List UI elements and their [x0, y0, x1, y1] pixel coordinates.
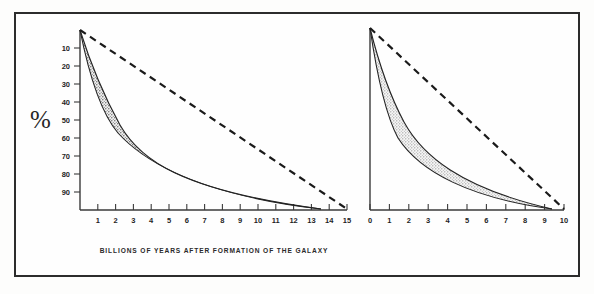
right-x-tick-label: 3 [426, 216, 430, 225]
left-y-tick-label: 70 [62, 152, 70, 161]
left-x-tick-label: 11 [272, 216, 280, 225]
left-y-tick-label: 20 [62, 62, 70, 71]
right-panel: 0 1 2 3 4 5 6 7 8 9 10 [368, 28, 568, 225]
right-x-tick-labels: 0 1 2 3 4 5 6 7 8 9 10 [368, 216, 568, 225]
left-x-tick-labels: 1 2 3 4 5 6 7 8 9 10 11 12 13 14 15 [96, 216, 351, 225]
left-x-tick-label: 3 [131, 216, 135, 225]
left-y-tick-label: 40 [62, 98, 70, 107]
left-x-tick-label: 10 [254, 216, 262, 225]
left-panel: % 10 20 30 40 50 [30, 30, 351, 225]
right-x-tick-label: 8 [523, 216, 527, 225]
left-shaded-band [80, 30, 321, 209]
left-x-tick-label: 7 [203, 216, 207, 225]
left-y-tick-label: 30 [62, 80, 70, 89]
left-x-tick-label: 9 [238, 216, 242, 225]
right-x-tick-label: 4 [446, 216, 451, 225]
right-x-tick-label: 6 [484, 216, 488, 225]
left-x-tick-label: 12 [289, 216, 297, 225]
right-x-tick-label: 7 [504, 216, 508, 225]
left-x-tick-label: 8 [220, 216, 224, 225]
right-x-tick-label: 5 [465, 216, 469, 225]
left-x-tick-label: 6 [185, 216, 189, 225]
chart-canvas: % 10 20 30 40 50 [0, 0, 594, 294]
left-x-tick-label: 14 [325, 216, 334, 225]
left-y-tick-label: 50 [62, 116, 70, 125]
left-x-tick-label: 1 [96, 216, 100, 225]
right-x-tick-label: 0 [368, 216, 372, 225]
right-x-tick-label: 10 [560, 216, 568, 225]
right-x-tick-label: 1 [387, 216, 391, 225]
left-y-tick-label: 10 [62, 44, 70, 53]
left-y-tick-label: 60 [62, 134, 70, 143]
left-y-ticks [74, 48, 80, 192]
right-shaded-band [370, 28, 552, 209]
left-x-tick-label: 13 [307, 216, 315, 225]
figure-root: % 10 20 30 40 50 [0, 0, 594, 294]
left-y-tick-labels: 10 20 30 40 50 60 70 80 90 [62, 44, 70, 197]
figure-caption: BILLIONS OF YEARS AFTER FORMATION OF THE… [100, 247, 329, 254]
right-x-tick-label: 9 [543, 216, 547, 225]
left-x-tick-label: 15 [343, 216, 351, 225]
left-y-tick-label: 90 [62, 188, 70, 197]
y-axis-label-percent: % [30, 106, 51, 133]
left-y-tick-label: 80 [62, 170, 70, 179]
left-x-tick-label: 5 [167, 216, 171, 225]
left-x-tick-label: 2 [114, 216, 118, 225]
right-x-tick-label: 2 [407, 216, 411, 225]
left-x-tick-label: 4 [149, 216, 154, 225]
left-dashed-reference-line [80, 30, 347, 209]
